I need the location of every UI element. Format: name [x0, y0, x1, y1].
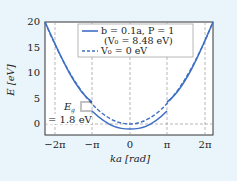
x-tick-neg-pi: −π — [85, 139, 100, 150]
x-tick-0: 0 — [127, 139, 133, 150]
x-tick-2pi: 2π — [199, 139, 212, 150]
band-structure-chart: b = 0.1a, P = 1 (V₀ = 8.48 eV) V₀ = 0 eV… — [0, 0, 237, 181]
y-tick-5: 5 — [34, 93, 40, 104]
gap-sub: g — [71, 106, 75, 114]
legend: b = 0.1a, P = 1 (V₀ = 8.48 eV) V₀ = 0 eV — [78, 24, 193, 57]
y-axis: 20 15 10 5 0 E [eV] — [5, 16, 40, 129]
gap-value: = 1.8 eV — [48, 114, 93, 125]
y-axis-label: E [eV] — [5, 64, 16, 97]
x-tick-neg-2pi: −2π — [44, 139, 66, 150]
legend-entry-free: V₀ = 0 eV — [100, 45, 147, 56]
x-axis-label: ka [rad] — [110, 153, 150, 164]
x-tick-pi: π — [164, 139, 171, 150]
x-axis: −2π −π 0 π 2π ka [rad] — [44, 139, 212, 164]
y-tick-0: 0 — [34, 118, 40, 129]
y-tick-15: 15 — [27, 42, 40, 53]
y-tick-20: 20 — [27, 16, 40, 27]
y-tick-10: 10 — [27, 67, 40, 78]
